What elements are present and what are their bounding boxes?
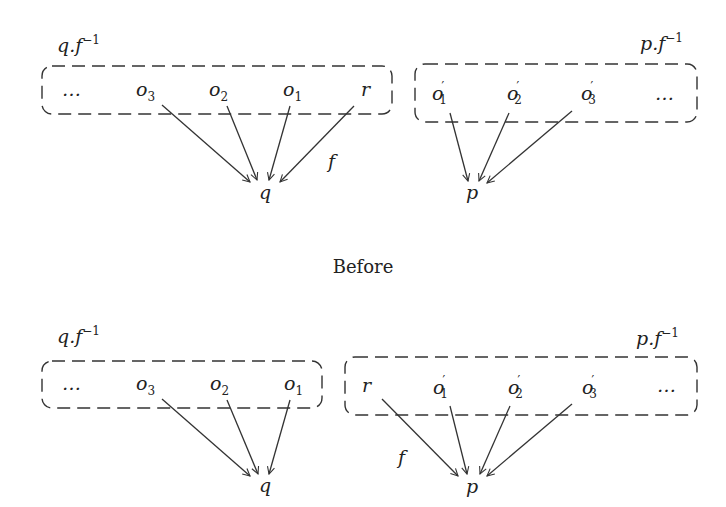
node-r: r: [361, 78, 372, 100]
node-ellipsis: …: [655, 82, 674, 104]
node-o3: o3: [136, 78, 155, 104]
node-o2: o2: [209, 78, 228, 104]
node-o3: o3: [136, 372, 155, 398]
preimage-box-q: [42, 361, 322, 408]
edge-o2prime-to-p: [480, 406, 510, 474]
top-right-group: p.f−1 o′1 o′2 o′3 … p: [415, 31, 697, 203]
node-r: r: [362, 374, 373, 396]
bottom-right-group: p.f−1 r o′1 o′2 o′3 … p f: [345, 326, 697, 497]
edge-label-f: f: [396, 446, 408, 468]
node-o1: o1: [284, 372, 303, 398]
bottom-left-group: q.f−1 … o3 o2 o1 q: [42, 324, 322, 496]
preimage-box-p: [345, 357, 697, 415]
diagram-svg: q.f−1 … o3 o2 o1 r q f p.f−1 o′1 o′2 o′3…: [0, 0, 726, 507]
edge-o1prime-to-p: [450, 406, 467, 474]
node-q: q: [259, 181, 271, 203]
node-o1: o1: [283, 78, 302, 104]
edge-o1-to-q: [269, 400, 290, 474]
edge-label-f: f: [326, 150, 338, 172]
edge-o1prime-to-p: [450, 113, 468, 181]
node-o2: o2: [210, 372, 229, 398]
edge-o3-to-q: [162, 105, 250, 182]
group-label-p-preimage: p.f−1: [640, 31, 683, 54]
caption-before: Before: [333, 256, 394, 277]
edge-o3-to-q: [162, 399, 250, 476]
node-o2-prime: o′2: [507, 80, 522, 107]
group-label-q-preimage: q.f−1: [57, 324, 100, 347]
node-o1-prime: o′1: [433, 374, 448, 401]
node-ellipsis: …: [62, 372, 81, 394]
edge-o2-to-q: [227, 400, 258, 474]
edge-r-to-q: [280, 106, 354, 182]
node-ellipsis: …: [62, 78, 81, 100]
edge-r-to-p: [382, 399, 458, 476]
node-ellipsis: …: [657, 374, 676, 396]
edge-o2prime-to-p: [479, 113, 509, 181]
group-label-q-preimage: q.f−1: [57, 33, 100, 56]
top-left-group: q.f−1 … o3 o2 o1 r q f: [42, 33, 392, 203]
node-q: q: [259, 474, 271, 496]
edge-o2-to-q: [227, 106, 257, 180]
diagram-canvas: q.f−1 … o3 o2 o1 r q f p.f−1 o′1 o′2 o′3…: [0, 0, 726, 507]
node-p: p: [466, 181, 478, 203]
edge-o1-to-q: [269, 106, 290, 180]
node-o3-prime: o′3: [581, 80, 596, 107]
node-p: p: [466, 475, 478, 497]
node-o2-prime: o′2: [508, 374, 523, 401]
group-label-p-preimage: p.f−1: [636, 326, 679, 349]
node-o1-prime: o′1: [432, 80, 447, 107]
node-o3-prime: o′3: [582, 374, 597, 401]
